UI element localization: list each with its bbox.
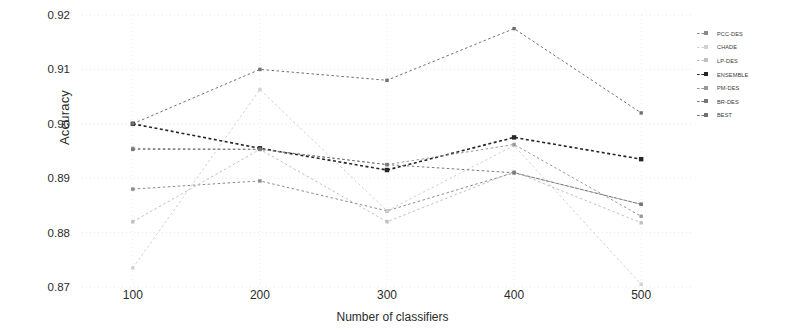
data-point-pm-des-500 (639, 215, 642, 218)
legend-dash-icon (697, 33, 704, 34)
legend-label: CHADE (717, 44, 737, 50)
gridlines (82, 15, 692, 287)
legend-item-pm-des[interactable]: PM-DES (697, 81, 783, 95)
legend-swatch-icon (697, 70, 714, 79)
data-point-br-des-400 (512, 171, 515, 174)
legend-marker-icon (704, 99, 708, 103)
legend-dash-icon (697, 101, 704, 102)
x-axis-tick: 400 (504, 288, 524, 302)
chart-figure: Accuracy 0.920.910.900.890.880.87 100200… (0, 0, 785, 334)
data-point-chade-100 (131, 266, 134, 269)
data-point-best-400 (512, 27, 515, 30)
legend-item-pcc-des[interactable]: PCC-DES (697, 27, 783, 41)
y-axis-tick: 0.87 (24, 281, 70, 293)
legend-dash-icon (697, 115, 704, 116)
x-axis-tick: 200 (250, 288, 270, 302)
legend-marker-icon (704, 113, 708, 117)
data-point-best-500 (639, 111, 642, 114)
legend-marker-icon (704, 45, 708, 49)
data-point-pm-des-400 (512, 143, 515, 146)
y-axis-tick: 0.88 (24, 227, 70, 239)
data-point-br-des-100 (131, 148, 134, 151)
data-point-lp-des-100 (131, 220, 134, 223)
data-point-lp-des-300 (385, 220, 388, 223)
legend-item-chade[interactable]: CHADE (697, 41, 783, 55)
data-point-br-des-200 (258, 148, 261, 151)
data-point-br-des-500 (639, 203, 642, 206)
x-axis-tick: 500 (631, 288, 651, 302)
legend-item-ensemble[interactable]: ENSEMBLE (697, 68, 783, 82)
series-line-br-des (133, 149, 641, 204)
data-point-best-200 (258, 68, 261, 71)
plot-svg (82, 15, 692, 287)
data-point-ensemble-300 (385, 168, 389, 172)
legend-item-lp-des[interactable]: LP-DES (697, 54, 783, 68)
legend-label: PCC-DES (717, 31, 743, 37)
chart-legend: PCC-DESCHADELP-DESENSEMBLEPM-DESBR-DESBE… (697, 27, 783, 122)
legend-item-best[interactable]: BEST (697, 109, 783, 123)
legend-label: ENSEMBLE (717, 72, 748, 78)
y-axis-tick: 0.90 (24, 118, 70, 130)
series-lines (133, 29, 641, 285)
data-point-br-des-300 (385, 163, 388, 166)
series-line-best (133, 29, 641, 124)
legend-label: PM-DES (717, 85, 739, 91)
legend-label: BR-DES (717, 99, 739, 105)
data-point-pcc-des-200 (258, 179, 261, 182)
legend-marker-icon (704, 58, 708, 62)
legend-dash-icon (697, 74, 704, 75)
legend-label: LP-DES (717, 58, 738, 64)
legend-label: BEST (717, 112, 732, 118)
data-point-pcc-des-100 (131, 187, 134, 190)
legend-dash-icon (697, 88, 704, 89)
data-point-ensemble-400 (512, 135, 516, 139)
data-point-best-100 (131, 122, 134, 125)
y-axis-tick: 0.89 (24, 172, 70, 184)
data-point-chade-200 (258, 88, 261, 91)
y-axis-tick-labels: 0.920.910.900.890.880.87 (24, 0, 70, 334)
legend-dash-icon (697, 47, 704, 48)
x-axis-label: Number of classifiers (0, 310, 785, 324)
legend-dash-icon (697, 60, 704, 61)
data-point-best-300 (385, 79, 388, 82)
legend-swatch-icon (697, 84, 714, 93)
plot-area (82, 15, 692, 287)
x-axis-tick: 100 (123, 288, 143, 302)
legend-item-br-des[interactable]: BR-DES (697, 95, 783, 109)
legend-marker-icon (704, 86, 708, 90)
x-axis-tick: 300 (377, 288, 397, 302)
legend-swatch-icon (697, 43, 714, 52)
legend-swatch-icon (697, 56, 714, 65)
legend-swatch-icon (697, 29, 714, 38)
y-axis-tick: 0.92 (24, 9, 70, 21)
legend-swatch-icon (697, 97, 714, 106)
data-point-ensemble-500 (639, 157, 643, 161)
y-axis-tick: 0.91 (24, 63, 70, 75)
legend-marker-icon (704, 31, 708, 35)
data-point-lp-des-500 (639, 221, 642, 224)
data-point-chade-500 (639, 283, 642, 286)
legend-marker-icon (704, 72, 708, 76)
legend-swatch-icon (697, 111, 714, 120)
data-point-chade-300 (385, 209, 388, 212)
